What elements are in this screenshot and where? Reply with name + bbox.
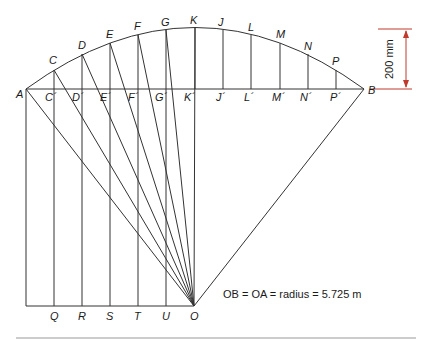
label-f-prime: F´: [128, 91, 139, 103]
label-p: P: [332, 55, 340, 67]
label-e: E: [106, 28, 114, 40]
label-g: G: [161, 16, 170, 28]
radius-caption: OB = OA = radius = 5.725 m: [223, 288, 362, 300]
label-f: F: [134, 20, 142, 32]
label-m: M: [276, 28, 286, 40]
label-p-prime: P´: [330, 91, 341, 103]
label-q: Q: [50, 310, 59, 322]
arc-construction-diagram: 200 mm C D E F G K J L M N P A B C´ D´ E…: [0, 0, 432, 341]
radius-oc: [54, 70, 194, 306]
label-s: S: [106, 310, 114, 322]
label-o: O: [190, 310, 199, 322]
label-t: T: [134, 310, 142, 322]
label-d: D: [78, 39, 86, 51]
label-u: U: [162, 310, 170, 322]
label-k: K: [190, 14, 198, 26]
label-m-prime: M´: [272, 91, 285, 103]
label-n-prime: N´: [300, 91, 312, 103]
radius-oe: [110, 43, 194, 306]
label-g-prime: G´: [155, 91, 168, 103]
label-b: B: [368, 84, 375, 96]
label-l-prime: L´: [244, 91, 254, 103]
label-j: J: [217, 16, 224, 28]
label-c: C: [49, 54, 57, 66]
label-k-prime: K´: [184, 91, 195, 103]
dimension-label: 200 mm: [383, 39, 395, 79]
label-e-prime: E´: [100, 91, 111, 103]
label-l: L: [248, 21, 254, 33]
label-d-prime: D´: [72, 91, 84, 103]
label-c-prime: C´: [45, 91, 57, 103]
radius-ob: [194, 89, 364, 306]
label-r: R: [78, 310, 86, 322]
radius-ok: [194, 28, 195, 306]
radius-og: [166, 30, 194, 306]
label-j-prime: J´: [215, 91, 226, 103]
label-a: A: [15, 88, 23, 100]
label-n: N: [304, 40, 312, 52]
